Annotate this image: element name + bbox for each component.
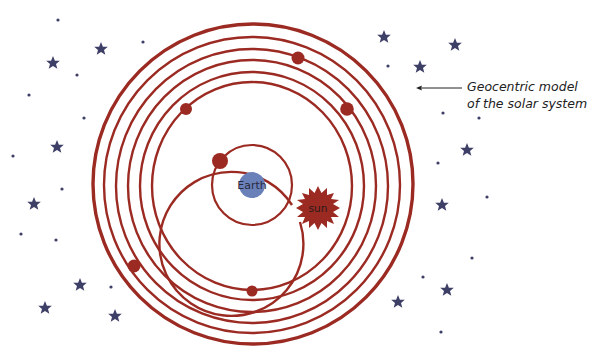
planet [292, 52, 305, 65]
star-icon [94, 42, 108, 55]
star-icon [391, 295, 405, 308]
star-icon [435, 198, 449, 211]
star-icon [50, 140, 64, 153]
star-icon [108, 309, 122, 322]
sun: sun [296, 186, 340, 230]
planet-moon [212, 153, 228, 169]
star-icon [413, 60, 427, 73]
star-icon [460, 143, 474, 156]
earth-label: Earth [237, 179, 267, 192]
orbit-sun [159, 172, 303, 316]
star-icon [377, 30, 391, 43]
star-icon [448, 38, 462, 51]
planet [247, 286, 258, 297]
caption-line-1: Geocentric model [467, 78, 587, 95]
geocentric-diagram: Earth sun Geocentric model of the solar … [0, 0, 594, 358]
caption-line-2: of the solar system [467, 95, 587, 112]
diagram-canvas: Earth sun [0, 0, 594, 358]
sun-label: sun [309, 202, 328, 214]
planet [180, 103, 192, 115]
star-icon [73, 278, 87, 291]
caption: Geocentric model of the solar system [467, 78, 587, 112]
caption-arrow [416, 86, 462, 91]
planet [128, 260, 141, 273]
earth: Earth [237, 172, 267, 198]
star-icon [46, 56, 60, 69]
star-icon [38, 301, 52, 314]
star-icon [27, 197, 41, 210]
planet [340, 102, 354, 116]
star-icon [440, 283, 454, 296]
